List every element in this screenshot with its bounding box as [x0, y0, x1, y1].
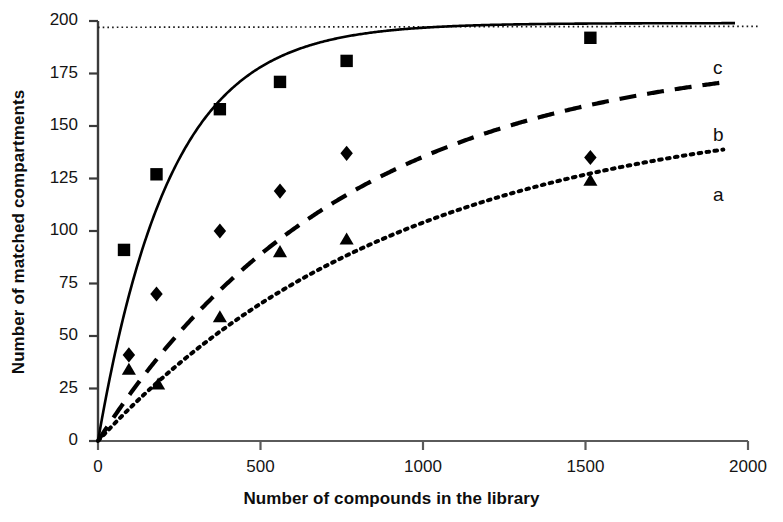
y-axis-ticks: [89, 21, 98, 441]
curve-a: [98, 150, 723, 441]
data-point-b: [123, 347, 135, 362]
data-point-c: [340, 55, 352, 67]
data-point-b: [150, 286, 162, 301]
data-point-b: [340, 146, 352, 161]
data-point-a: [273, 245, 287, 257]
y-tick-label: 200: [18, 10, 78, 30]
data-point-a: [583, 174, 597, 186]
data-point-c: [274, 76, 286, 88]
series-markers: [118, 32, 598, 390]
curve-label-b: b: [713, 124, 724, 146]
data-point-b: [214, 223, 226, 238]
data-point-c: [118, 244, 130, 256]
chart-figure: Number of compounds in the library Numbe…: [0, 0, 783, 522]
x-tick-label: 1500: [551, 457, 621, 477]
y-tick-label: 50: [18, 325, 78, 345]
curve-label-c: c: [713, 57, 723, 79]
curve-c: [98, 23, 735, 441]
y-tick-label: 25: [18, 378, 78, 398]
curve-label-a: a: [713, 184, 724, 206]
data-point-b: [274, 184, 286, 199]
data-point-c: [584, 32, 596, 44]
data-point-a: [122, 363, 136, 375]
y-tick-label: 150: [18, 115, 78, 135]
data-point-b: [584, 150, 596, 165]
x-tick-label: 2000: [713, 457, 783, 477]
series-curves: [98, 23, 735, 441]
data-point-a: [213, 310, 227, 322]
plot-area: [0, 0, 783, 522]
y-tick-label: 125: [18, 168, 78, 188]
x-tick-label: 1000: [388, 457, 458, 477]
x-axis-title: Number of compounds in the library: [0, 489, 783, 509]
axis-lines: [98, 21, 748, 441]
y-tick-label: 0: [18, 430, 78, 450]
y-tick-label: 100: [18, 220, 78, 240]
data-point-a: [340, 233, 354, 245]
y-tick-label: 75: [18, 273, 78, 293]
x-axis-ticks: [98, 441, 748, 450]
data-point-c: [150, 168, 162, 180]
data-point-c: [214, 103, 226, 115]
y-tick-label: 175: [18, 63, 78, 83]
x-tick-label: 500: [226, 457, 296, 477]
x-tick-label: 0: [63, 457, 133, 477]
